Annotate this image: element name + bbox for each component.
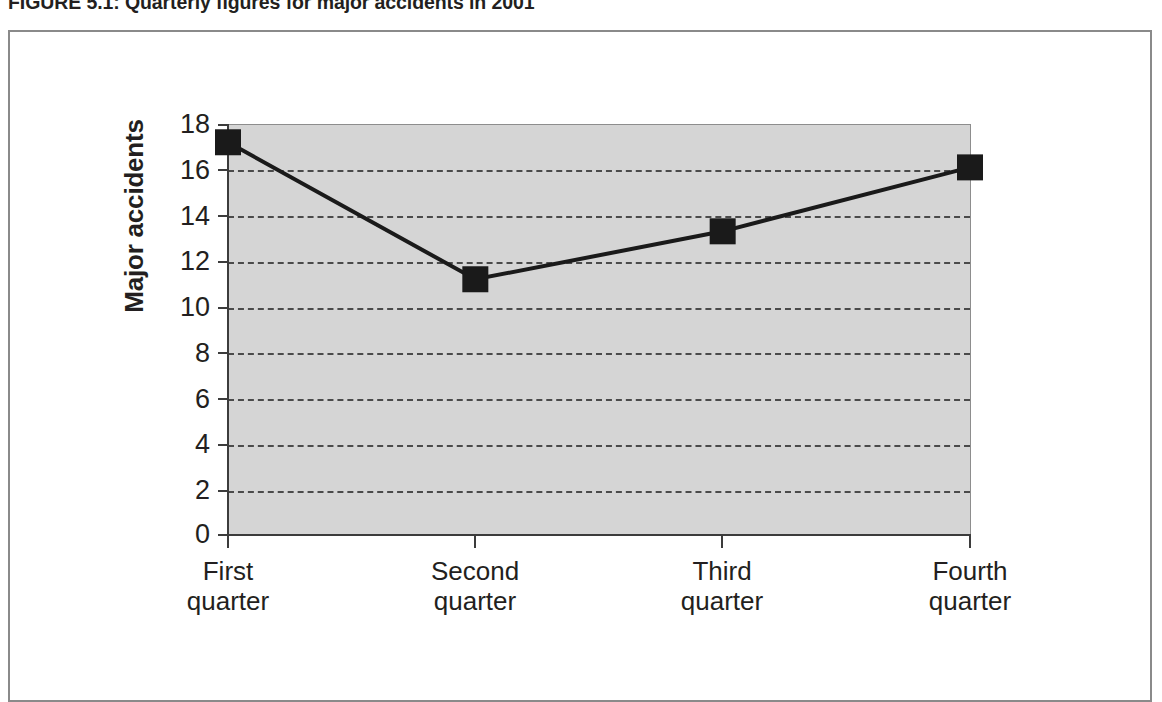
x-tick-mark-3 (969, 535, 971, 548)
y-tick-label-10: 10 (150, 294, 210, 321)
x-tick-label-third-quarter: Third quarter (612, 556, 832, 616)
gridline-8 (228, 353, 970, 355)
x-tick-label-line2: quarter (365, 586, 585, 616)
y-tick-label-16: 16 (150, 157, 210, 184)
gridline-10 (228, 308, 970, 310)
x-tick-label-line1: Third (612, 556, 832, 586)
y-tick-label-2: 2 (150, 477, 210, 504)
y-tick-label-18: 18 (150, 111, 210, 138)
y-axis-line (227, 124, 229, 536)
x-axis-line (227, 534, 971, 536)
x-tick-label-line2: quarter (860, 586, 1080, 616)
x-tick-label-line2: quarter (118, 586, 338, 616)
y-tick-mark-14 (218, 215, 228, 217)
x-tick-mark-0 (227, 535, 229, 548)
y-tick-mark-6 (218, 398, 228, 400)
gridline-14 (228, 216, 970, 218)
x-tick-label-first-quarter: First quarter (118, 556, 338, 616)
y-tick-mark-10 (218, 307, 228, 309)
y-tick-mark-18 (218, 124, 228, 126)
y-tick-mark-12 (218, 261, 228, 263)
gridline-16 (228, 170, 970, 172)
x-tick-label-fourth-quarter: Fourth quarter (860, 556, 1080, 616)
y-tick-label-14: 14 (150, 203, 210, 230)
x-tick-label-line1: Second (365, 556, 585, 586)
gridline-6 (228, 399, 970, 401)
gridline-12 (228, 262, 970, 264)
y-tick-mark-2 (218, 490, 228, 492)
x-tick-mark-1 (474, 535, 476, 548)
gridline-4 (228, 445, 970, 447)
y-tick-label-8: 8 (150, 340, 210, 367)
x-tick-mark-2 (721, 535, 723, 548)
plot-area (228, 124, 971, 536)
x-tick-label-second-quarter: Second quarter (365, 556, 585, 616)
y-tick-mark-4 (218, 444, 228, 446)
x-tick-label-line1: Fourth (860, 556, 1080, 586)
y-tick-label-4: 4 (150, 431, 210, 458)
x-tick-label-line1: First (118, 556, 338, 586)
y-tick-label-0: 0 (150, 521, 210, 548)
y-tick-mark-16 (218, 169, 228, 171)
x-tick-label-line2: quarter (612, 586, 832, 616)
y-tick-label-12: 12 (150, 248, 210, 275)
gridline-2 (228, 491, 970, 493)
y-tick-label-6: 6 (150, 386, 210, 413)
y-axis-title: Major accidents (114, 76, 154, 356)
y-tick-mark-8 (218, 352, 228, 354)
